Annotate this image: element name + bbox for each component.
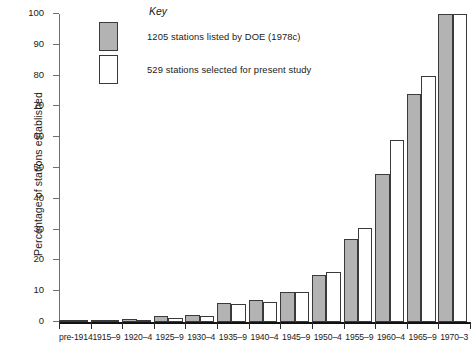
legend-item: 1205 stations listed by DOE (1978c)	[99, 22, 399, 55]
y-axis-tick-label: 100	[28, 7, 44, 18]
legend-swatch	[99, 55, 118, 84]
y-axis-tick: 100	[53, 13, 59, 14]
bar	[168, 318, 182, 322]
x-axis-label: 1935–9	[217, 332, 249, 342]
x-axis-tick	[91, 322, 92, 329]
y-axis-tick: 70	[53, 105, 59, 106]
x-axis-tick	[249, 322, 250, 329]
bar	[453, 14, 467, 322]
x-axis-tick	[407, 322, 408, 329]
bar	[295, 292, 309, 322]
y-axis-tick-label: 0	[39, 315, 44, 326]
x-axis-tick	[438, 322, 439, 329]
bar	[59, 320, 73, 322]
x-axis-tick	[154, 322, 155, 329]
x-axis-line	[59, 322, 470, 324]
y-axis-tick: 60	[53, 136, 59, 137]
bar	[122, 319, 136, 322]
y-axis-tick-label: 90	[33, 38, 44, 49]
x-axis-tick	[59, 322, 60, 329]
bar	[200, 316, 214, 322]
bar	[421, 76, 435, 322]
x-axis-label: 1915–9	[91, 332, 123, 342]
y-axis-tick-label: 20	[33, 253, 44, 264]
bar	[137, 320, 151, 322]
legend: Key 1205 stations listed by DOE (1978c)5…	[99, 5, 399, 88]
x-axis-label: 1925–9	[154, 332, 186, 342]
y-axis-tick: 20	[53, 259, 59, 260]
y-axis-tick-label: 50	[33, 161, 44, 172]
x-axis-label: 1920–4	[122, 332, 154, 342]
y-axis-tick-label: 30	[33, 223, 44, 234]
bar	[231, 304, 245, 322]
x-axis-label: 1945–9	[280, 332, 312, 342]
bar	[217, 303, 231, 322]
legend-items: 1205 stations listed by DOE (1978c)529 s…	[99, 22, 399, 88]
bar	[280, 292, 294, 322]
x-axis-label: pre-1914	[59, 332, 91, 342]
bar	[154, 316, 168, 322]
legend-label: 1205 stations listed by DOE (1978c)	[147, 31, 301, 42]
x-axis-label: 1930–4	[185, 332, 217, 342]
y-axis-line	[59, 14, 60, 322]
x-axis-label: 1940–4	[249, 332, 281, 342]
x-axis-tick	[280, 322, 281, 329]
bar	[185, 315, 199, 322]
bar	[312, 275, 326, 322]
x-axis-tick	[344, 322, 345, 329]
bar	[105, 320, 119, 322]
y-axis-tick: 50	[53, 167, 59, 168]
bar	[390, 140, 404, 322]
y-axis-title: Percentage of stations established	[32, 44, 44, 304]
legend-item: 529 stations selected for present study	[99, 55, 399, 88]
x-axis-label: 1960–4	[375, 332, 407, 342]
bar	[358, 228, 372, 322]
bar	[91, 320, 105, 322]
bar	[249, 300, 263, 322]
x-axis-tick	[122, 322, 123, 329]
x-axis-tick	[185, 322, 186, 329]
y-axis-tick: 10	[53, 290, 59, 291]
x-axis-label: 1955–9	[344, 332, 376, 342]
bar	[438, 14, 452, 322]
y-axis-tick-label: 40	[33, 192, 44, 203]
x-axis-label: 1970–3	[438, 332, 470, 342]
y-axis-tick: 40	[53, 198, 59, 199]
bar-chart: Percentage of stations established 01020…	[0, 0, 476, 359]
x-axis-tick	[375, 322, 376, 329]
y-axis-tick-label: 60	[33, 130, 44, 141]
y-axis-tick-label: 10	[33, 284, 44, 295]
y-axis-tick-label: 70	[33, 99, 44, 110]
bar	[344, 239, 358, 322]
x-axis-tick	[217, 322, 218, 329]
x-axis-label: 1950–4	[312, 332, 344, 342]
x-axis-tick	[312, 322, 313, 329]
x-axis-tick	[470, 322, 471, 329]
y-axis-tick-label: 80	[33, 69, 44, 80]
x-axis-label: 1965–9	[407, 332, 439, 342]
y-axis-tick: 80	[53, 75, 59, 76]
legend-swatch	[99, 22, 118, 51]
bar	[375, 174, 389, 322]
bar	[407, 94, 421, 322]
legend-label: 529 stations selected for present study	[147, 64, 311, 75]
bar	[263, 302, 277, 322]
legend-title: Key	[149, 5, 399, 17]
y-axis-tick: 30	[53, 229, 59, 230]
bar	[326, 272, 340, 322]
y-axis-tick: 90	[53, 44, 59, 45]
bar	[73, 320, 87, 322]
